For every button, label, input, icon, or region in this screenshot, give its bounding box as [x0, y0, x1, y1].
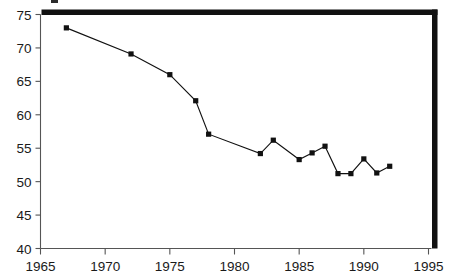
y-tick-label: 65: [16, 74, 31, 89]
y-tick-label: 70: [16, 41, 31, 56]
data-point-marker: [206, 132, 211, 137]
data-point-marker: [128, 51, 133, 56]
x-tick-label: 1970: [90, 259, 120, 274]
data-point-marker: [167, 72, 172, 77]
data-point-marker: [348, 171, 353, 176]
data-point-marker: [64, 25, 69, 30]
y-tick-label: 40: [16, 242, 31, 257]
y-tick-label: 75: [16, 8, 31, 23]
data-point-marker: [374, 170, 379, 175]
plot-frame-top: [42, 10, 438, 16]
y-tick-label: 50: [16, 175, 31, 190]
data-point-marker: [258, 151, 263, 156]
data-point-marker: [335, 171, 340, 176]
data-point-marker: [310, 150, 315, 155]
scan-artifact: [51, 0, 58, 3]
plot-frame-right: [432, 10, 438, 249]
chart-container: 4045505560657075196519701975198019851990…: [0, 0, 453, 279]
data-point-marker: [271, 138, 276, 143]
x-tick-label: 1965: [25, 259, 55, 274]
x-tick-label: 1985: [284, 259, 314, 274]
data-point-marker: [297, 157, 302, 162]
series-line: [66, 28, 389, 174]
line-chart: 4045505560657075196519701975198019851990…: [0, 0, 453, 279]
x-tick-label: 1980: [219, 259, 249, 274]
x-tick-label: 1990: [349, 259, 379, 274]
data-point-marker: [193, 98, 198, 103]
y-tick-label: 55: [16, 141, 31, 156]
x-tick-label: 1975: [155, 259, 185, 274]
data-point-marker: [387, 164, 392, 169]
data-point-marker: [361, 156, 366, 161]
data-point-marker: [322, 144, 327, 149]
y-tick-label: 60: [16, 108, 31, 123]
x-tick-label: 1995: [413, 259, 443, 274]
y-tick-label: 45: [16, 208, 31, 223]
